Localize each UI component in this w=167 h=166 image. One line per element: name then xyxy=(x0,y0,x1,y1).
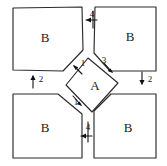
flow-diamond-upper-right-label: 3 xyxy=(102,55,107,65)
flow-right-gap-label: 2 xyxy=(148,74,153,84)
region-bottom-right-label: B xyxy=(124,120,133,135)
diagram-canvas: B B B B A 4 4 2 xyxy=(0,0,167,166)
flow-right-gap: 2 xyxy=(139,72,152,85)
flow-diamond-lower-left-label: 1 xyxy=(74,97,79,107)
flow-bottom-gap-label: 4 xyxy=(86,122,91,132)
region-center-label: A xyxy=(90,78,100,93)
region-flow-diagram: B B B B A 4 4 2 xyxy=(0,0,167,166)
flow-left-gap-arrowhead xyxy=(30,75,35,80)
flow-left-gap-label: 2 xyxy=(39,74,44,84)
region-top-right-label: B xyxy=(126,29,135,44)
region-bottom-left-label: B xyxy=(41,120,50,135)
flow-right-gap-arrowhead xyxy=(139,80,144,85)
flow-top-gap-label: 4 xyxy=(90,9,95,19)
flow-diamond-upper-left-label: 1 xyxy=(81,58,86,68)
flow-bottom-gap: 4 xyxy=(81,122,92,142)
region-top-left-label: B xyxy=(41,30,50,45)
flow-left-gap: 2 xyxy=(30,74,43,88)
